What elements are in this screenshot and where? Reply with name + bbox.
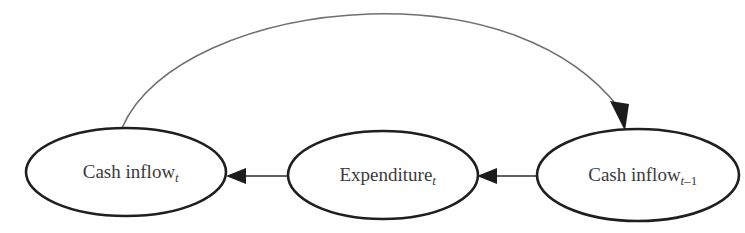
feedback-arc-path	[122, 14, 619, 128]
arrow-head	[477, 168, 497, 184]
node-cash-inflow-t: Cash inflowt	[26, 128, 226, 216]
feedback-arrow-head	[610, 101, 629, 131]
edge-expenditure-to-cash-inflow-t	[226, 168, 290, 184]
diagram-canvas: Cash inflowt Expendituret Cash inflowt–1	[0, 0, 745, 233]
node-cash-inflow-t-minus-1: Cash inflowt–1	[537, 129, 739, 221]
flow-diagram: Cash inflowt Expendituret Cash inflowt–1	[0, 0, 745, 233]
node-expenditure-t: Expendituret	[288, 131, 478, 219]
edge-cash-inflow-prev-to-expenditure	[477, 168, 541, 184]
arrow-head	[226, 168, 246, 184]
edge-cash-inflow-t-to-cash-inflow-prev	[122, 14, 629, 131]
